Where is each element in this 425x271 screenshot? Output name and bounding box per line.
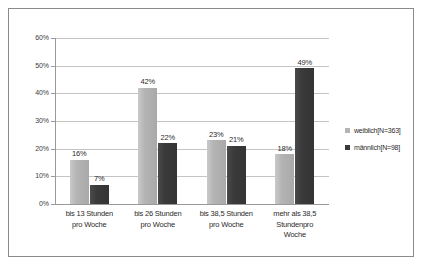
bar-value-label: 16% — [64, 149, 95, 158]
bar-weiblich-4 — [275, 154, 294, 204]
y-axis-tick-label: 50% — [13, 62, 49, 69]
bar-value-label: 22% — [152, 133, 183, 142]
bar-maennlich-3 — [227, 146, 246, 204]
legend-swatch-icon — [345, 145, 350, 150]
category-label-line: mehr als 38,5 — [255, 209, 335, 220]
category-label-4: mehr als 38,5StundenproWoche — [255, 209, 335, 241]
bar-weiblich-2 — [138, 88, 157, 204]
legend-swatch-icon — [345, 128, 350, 133]
bar-value-label: 21% — [221, 135, 252, 144]
y-axis-tick-label: 60% — [13, 34, 49, 41]
category-label-line: Woche — [255, 230, 335, 241]
plot-area: 16%7%42%22%23%21%18%49% — [55, 38, 329, 204]
bar-weiblich-3 — [207, 140, 226, 204]
bar-value-label: 7% — [84, 174, 115, 183]
chart-frame: 0%10%20%30%40%50%60% 16%7%42%22%23%21%18… — [8, 8, 414, 257]
legend-item-label: weiblich[N=363] — [354, 127, 401, 134]
y-axis-tick-label: 20% — [13, 145, 49, 152]
legend-item-maennlich[interactable]: männlich[N=98] — [345, 144, 401, 151]
category-label-line: Stundenpro — [255, 220, 335, 231]
bar-value-label: 42% — [132, 77, 163, 86]
chart-legend: weiblich[N=363]männlich[N=98] — [345, 127, 401, 161]
bar-value-label: 49% — [289, 58, 320, 67]
bar-maennlich-2 — [158, 143, 177, 204]
gridline — [55, 204, 329, 205]
y-axis-tick-label: 0% — [13, 200, 49, 207]
y-axis-tick-label: 40% — [13, 89, 49, 96]
legend-item-weiblich[interactable]: weiblich[N=363] — [345, 127, 401, 134]
y-axis-tick-label: 30% — [13, 117, 49, 124]
bar-maennlich-1 — [90, 185, 109, 204]
bar-maennlich-4 — [295, 68, 314, 204]
y-axis-tick-label: 10% — [13, 172, 49, 179]
legend-item-label: männlich[N=98] — [354, 144, 400, 151]
